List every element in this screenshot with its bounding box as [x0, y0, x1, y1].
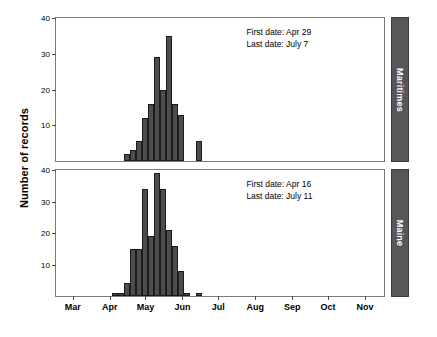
- y-axis-title: Number of records: [18, 88, 30, 228]
- x-axis-tick: [292, 296, 293, 300]
- y-axis-tick: [52, 265, 56, 266]
- x-axis-tick-label: Jun: [174, 302, 190, 312]
- x-axis-tick: [218, 296, 219, 300]
- x-axis-tick: [145, 296, 146, 300]
- bar: [196, 293, 202, 296]
- x-axis-tick-label: Mar: [65, 302, 81, 312]
- y-axis-tick: [52, 170, 56, 171]
- strip-label-maine-text: Maine: [395, 220, 405, 247]
- strip-label-maine: Maine: [391, 169, 409, 297]
- x-axis-tick-label: Sep: [284, 302, 301, 312]
- x-axis-tick: [328, 296, 329, 300]
- x-axis-tick-label: Jul: [212, 302, 225, 312]
- annotation-first-date: First date: Apr 16: [246, 178, 312, 190]
- bar: [184, 293, 190, 296]
- y-axis-tick: [52, 54, 56, 55]
- strip-label-maritimes: Maritimes: [391, 17, 409, 162]
- bar: [178, 115, 184, 161]
- panel-maritimes: 10203040 First date: Apr 29 Last date: J…: [55, 17, 385, 162]
- x-axis-tick: [182, 296, 183, 300]
- plot-area-maine: 10203040 MarAprMayJunJulAugSepOctNov: [56, 170, 384, 296]
- y-axis-tick: [52, 233, 56, 234]
- annotation-maritimes: First date: Apr 29 Last date: July 7: [246, 26, 311, 50]
- y-axis-tick: [52, 90, 56, 91]
- strip-label-maritimes-text: Maritimes: [395, 68, 405, 112]
- annotation-last-date: Last date: July 7: [246, 38, 311, 50]
- y-axis-tick-label: 40: [41, 166, 50, 175]
- x-axis-tick: [365, 296, 366, 300]
- x-axis-tick-label: May: [137, 302, 155, 312]
- x-axis-tick-label: Oct: [320, 302, 335, 312]
- y-axis-tick-label: 40: [41, 14, 50, 23]
- x-axis-tick-label: Aug: [246, 302, 264, 312]
- y-axis-tick-label: 30: [41, 197, 50, 206]
- plot-area-maritimes: 10203040: [56, 18, 384, 161]
- figure: Number of records 10203040 First date: A…: [0, 0, 437, 337]
- y-axis-tick-label: 20: [41, 229, 50, 238]
- x-axis-tick: [255, 296, 256, 300]
- annotation-maine: First date: Apr 16 Last date: July 11: [246, 178, 312, 202]
- y-axis-tick-label: 10: [41, 121, 50, 130]
- x-axis-tick: [110, 296, 111, 300]
- annotation-first-date: First date: Apr 29: [246, 26, 311, 38]
- bar-series-maine: [56, 170, 384, 296]
- y-axis-tick: [52, 18, 56, 19]
- panel-maine: 10203040 MarAprMayJunJulAugSepOctNov Fir…: [55, 169, 385, 297]
- y-axis-tick-label: 10: [41, 260, 50, 269]
- x-axis-tick-label: Nov: [356, 302, 373, 312]
- y-axis-tick-label: 30: [41, 49, 50, 58]
- bar: [196, 141, 202, 161]
- x-axis-tick: [73, 296, 74, 300]
- y-axis-tick-label: 20: [41, 85, 50, 94]
- bar-series-maritimes: [56, 18, 384, 161]
- y-axis-tick: [52, 202, 56, 203]
- annotation-last-date: Last date: July 11: [246, 190, 312, 202]
- x-axis-tick-label: Apr: [102, 302, 118, 312]
- y-axis-tick: [52, 125, 56, 126]
